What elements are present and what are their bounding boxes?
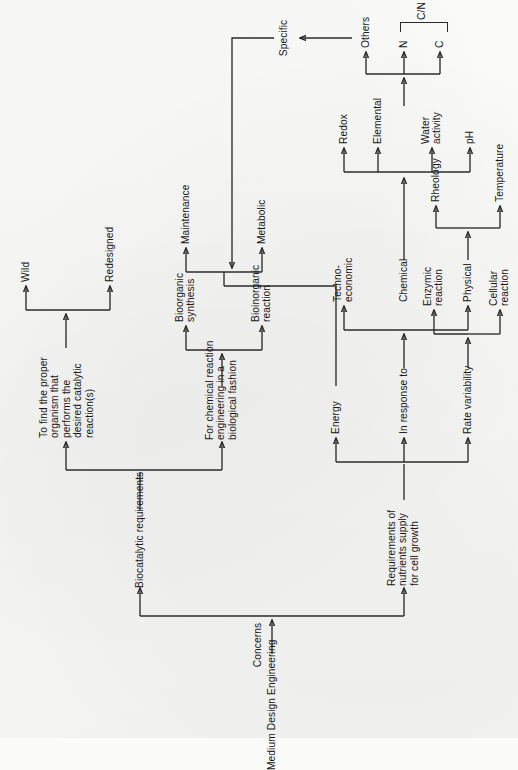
node-energy: Energy xyxy=(330,374,341,434)
node-techno-economic: Techno- economic xyxy=(332,236,355,302)
node-chemical: Chemical xyxy=(398,236,409,302)
node-bioorganic-synthesis: Bioorganic synthesis xyxy=(174,242,197,322)
node-redox: Redox xyxy=(338,84,349,144)
node-elemental: Elemental xyxy=(372,74,383,144)
node-chemical-reaction-engineering: For chemical reaction engineering in a b… xyxy=(204,320,238,440)
node-others: Others xyxy=(360,0,371,48)
node-nutrient-requirements: Requirements of nutrients supply for cel… xyxy=(386,466,420,586)
node-enzymic-reaction: Enzymic reaction xyxy=(422,236,445,306)
node-biocatalytic-requirements: Biocatalytic requirements xyxy=(134,458,145,588)
node-find-proper-organism: To find the proper organism that perform… xyxy=(38,328,95,438)
node-in-response-to: In response to xyxy=(398,346,409,434)
label-cn-ratio: C/N ratio xyxy=(416,0,427,20)
node-specific: Specific xyxy=(278,10,289,66)
node-wild: Wild xyxy=(20,222,31,282)
node-metabolic: Metabolic xyxy=(256,164,267,244)
node-ph: pH xyxy=(464,104,475,144)
node-bioinorganic-reaction: Bioinorganic reaction xyxy=(250,242,273,322)
cn-ratio-brace xyxy=(400,22,448,32)
node-maintenance: Maintenance xyxy=(180,164,191,244)
node-physical: Physical xyxy=(462,236,473,302)
node-cellular-reaction: Cellular reaction xyxy=(488,236,511,306)
edge-label-concerns: Concerns xyxy=(252,614,263,676)
node-root: Medium Design Engineering xyxy=(266,652,277,770)
node-water-activity: Water activity xyxy=(420,84,443,144)
node-rate-variability: Rate variability xyxy=(462,344,473,434)
node-redesigned: Redesigned xyxy=(104,202,115,282)
node-temperature: Temperature xyxy=(494,122,505,202)
